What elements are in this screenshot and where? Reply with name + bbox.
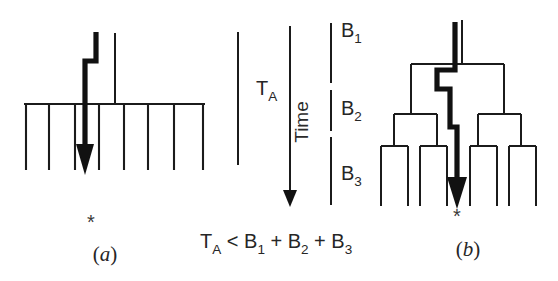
panel-b-star-marker: * xyxy=(453,205,461,227)
panel-b-caption: (b) xyxy=(456,237,481,261)
panel-a-arrow-head xyxy=(76,144,94,175)
panel-a-skew-path xyxy=(85,32,96,146)
time-axis-label: Time xyxy=(291,101,312,143)
inequality-formula: TA < B1 + B2 + B3 xyxy=(200,230,352,257)
b2-label: B2 xyxy=(341,97,362,124)
timing-axes-group: TA Time B1 B2 B3 xyxy=(238,19,362,207)
b1-label: B1 xyxy=(341,19,362,46)
panel-a-group xyxy=(24,32,205,175)
panel-a-star-marker: * xyxy=(87,211,95,233)
inequality-formula-group: TA < B1 + B2 + B3 xyxy=(200,230,352,257)
panel-a-caption: (a) xyxy=(93,242,118,266)
panel-b-group xyxy=(381,20,536,209)
ta-label: TA xyxy=(256,77,277,104)
b3-label: B3 xyxy=(341,162,362,189)
figure-container: TA Time B1 B2 B3 TA < B1 + B2 + B3 xyxy=(0,0,558,281)
clock-distribution-figure: TA Time B1 B2 B3 TA < B1 + B2 + B3 xyxy=(0,0,558,281)
time-axis-arrow-head xyxy=(283,190,297,207)
